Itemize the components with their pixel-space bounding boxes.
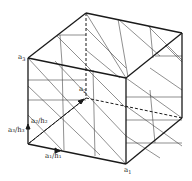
cube-diagram (0, 0, 192, 181)
label-a1-over-h1: a₁/h₁ (45, 153, 62, 160)
hidden-edges (28, 13, 182, 144)
label-a2-over-h2: a₂/h₂ (31, 118, 48, 125)
label-a3: a3 (18, 54, 25, 62)
lattice-planes (28, 13, 182, 164)
label-a1: a1 (124, 167, 131, 175)
label-a3-over-h3: a₃/h₃ (8, 127, 25, 134)
label-a2: a2 (79, 86, 86, 94)
